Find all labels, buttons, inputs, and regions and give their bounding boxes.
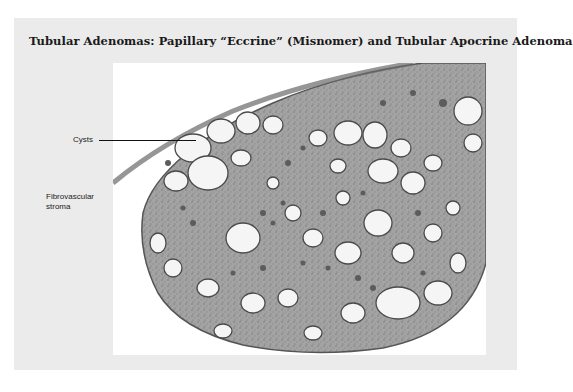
figure-title: Tubular Adenomas: Papillary “Eccrine” (M… bbox=[29, 34, 573, 48]
label-fibrovascular-stroma: Fibrovascular stroma bbox=[46, 192, 106, 212]
cysts-leader-line bbox=[99, 140, 196, 141]
label-cysts: Cysts bbox=[73, 135, 93, 145]
tissue-section-image bbox=[113, 63, 486, 355]
histology-micrograph bbox=[113, 63, 486, 355]
